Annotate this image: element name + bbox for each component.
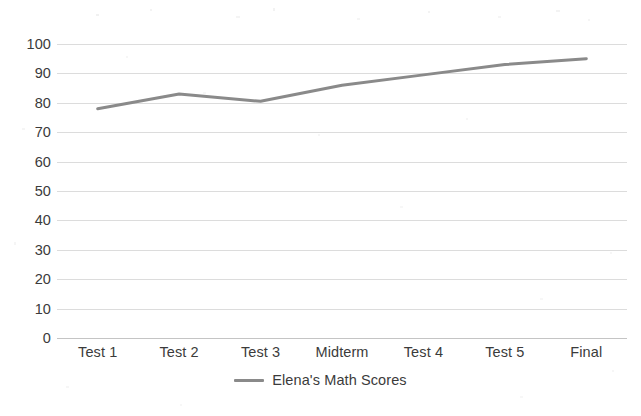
y-axis-tick-label-70: 70 [11,125,51,140]
x-axis-tick-label-test-1: Test 1 [78,344,117,361]
line-chart: 0102030405060708090100 Test 1Test 2Test … [0,0,641,416]
y-axis-tick-label-60: 60 [11,155,51,170]
x-axis-tick-label-test-4: Test 4 [404,344,443,361]
series-line-elena-math-scores [98,59,587,109]
series-layer [57,44,627,338]
chart-legend: Elena's Math Scores [0,372,641,388]
x-axis-tick-label-test-3: Test 3 [241,344,280,361]
y-axis-tick-label-80: 80 [11,96,51,111]
x-axis-tick-label-test-5: Test 5 [485,344,524,361]
y-axis-labels: 0102030405060708090100 [6,44,51,338]
y-axis-tick-label-50: 50 [11,184,51,199]
legend-item[interactable]: Elena's Math Scores [234,372,406,388]
y-axis-tick-label-0: 0 [11,331,51,346]
legend-item-label: Elena's Math Scores [272,372,406,388]
y-axis-tick-label-40: 40 [11,213,51,228]
y-axis-tick-label-10: 10 [11,302,51,317]
y-axis-tick-label-100: 100 [11,37,51,52]
plot-area [57,44,627,338]
x-axis-tick-label-final: Final [570,344,602,361]
x-axis-labels: Test 1Test 2Test 3MidtermTest 4Test 5Fin… [57,344,627,366]
x-axis-tick-label-midterm: Midterm [315,344,368,361]
legend-swatch-elena-math-scores [234,379,264,382]
gridline-0 [57,338,627,339]
y-axis-tick-label-20: 20 [11,272,51,287]
y-axis-tick-label-90: 90 [11,66,51,81]
x-axis-tick-label-test-2: Test 2 [159,344,198,361]
y-axis-tick-label-30: 30 [11,243,51,258]
